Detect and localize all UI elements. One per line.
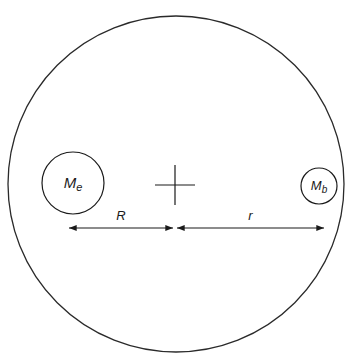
dimension-R-label: R [116, 208, 125, 223]
outer-circle [8, 16, 344, 352]
earth-mass: Me [42, 152, 104, 214]
dimension-R: R [69, 208, 173, 228]
dimension-r: r [177, 208, 324, 228]
gravity-diagram: Me Mb R r [0, 0, 348, 362]
dimension-r-label: r [248, 208, 253, 223]
center-cross-icon [155, 165, 195, 205]
earth-mass-label: Me [64, 174, 83, 193]
body-mass-label: Mb [311, 178, 328, 195]
body-mass: Mb [301, 168, 337, 204]
